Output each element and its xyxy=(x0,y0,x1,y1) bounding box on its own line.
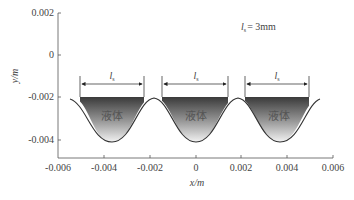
spacing-annotation: ls= 3mm xyxy=(241,21,276,33)
y-axis xyxy=(58,13,61,158)
x-tick-label: 0.004 xyxy=(276,162,299,173)
x-tick-label: -0.006 xyxy=(45,162,71,173)
x-tick-label: -0.004 xyxy=(91,162,117,173)
x-tick-label: 0 xyxy=(194,162,199,173)
y-tick-label: 0 xyxy=(49,49,54,60)
y-tick-label: 0.002 xyxy=(32,7,55,18)
y-tick-label: -0.002 xyxy=(28,91,54,102)
x-axis-label: x/m xyxy=(189,177,204,188)
x-tick-label: 0.006 xyxy=(322,162,345,173)
liquid-label: 液体 xyxy=(101,109,123,123)
diagram-canvas: 0.002 0 -0.002 -0.004 -0.006 -0.004 -0.0… xyxy=(0,0,354,200)
liquid-label: 液体 xyxy=(185,109,207,123)
span-label: ls xyxy=(193,70,199,82)
y-tick-label: -0.004 xyxy=(28,134,54,145)
span-label: ls xyxy=(109,70,115,82)
x-axis xyxy=(58,155,333,158)
span-label: ls xyxy=(274,70,280,82)
x-tick-label: -0.002 xyxy=(137,162,163,173)
liquid-label: 液体 xyxy=(268,109,290,123)
y-axis-label: y/m xyxy=(9,69,20,84)
x-tick-label: 0.002 xyxy=(230,162,253,173)
